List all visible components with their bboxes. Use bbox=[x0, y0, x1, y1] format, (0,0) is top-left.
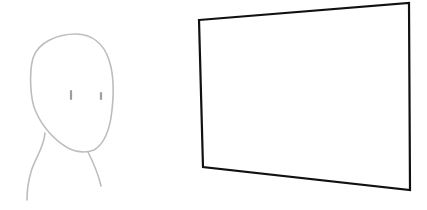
neck-right bbox=[88, 152, 101, 186]
person-figure bbox=[27, 34, 113, 200]
blank-screen-frame bbox=[199, 3, 410, 190]
illustration-canvas bbox=[0, 0, 427, 210]
neck-left bbox=[27, 133, 45, 200]
